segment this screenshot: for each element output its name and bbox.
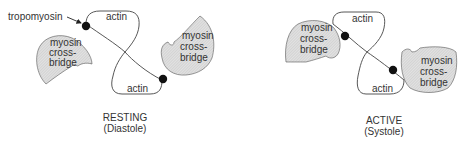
- panel-active: actin actin myosin cross- bridge myosin …: [286, 12, 457, 137]
- active-subtitle: (Systole): [364, 126, 403, 137]
- myosin-right-label-1: myosin: [421, 55, 453, 66]
- actin-bottom-label: actin: [372, 83, 393, 94]
- myosin-right-label-2: cross-: [420, 66, 447, 77]
- myosin-right-label-2: cross-: [180, 41, 207, 52]
- tropomyosin-label: tropomyosin: [8, 11, 62, 22]
- panel-resting: tropomyosin actin actin myosin cross- br…: [8, 11, 214, 134]
- myosin-left-label-3: bridge: [300, 44, 328, 55]
- tropomyosin-dot-lower: [389, 66, 397, 74]
- tropomyosin-dot-lower: [159, 75, 167, 83]
- tropomyosin-dot-upper: [341, 32, 349, 40]
- resting-title: RESTING: [103, 112, 148, 123]
- muscle-contraction-diagram: tropomyosin actin actin myosin cross- br…: [0, 0, 468, 144]
- tropomyosin-dot-upper: [82, 22, 90, 30]
- myosin-left-label-3: bridge: [49, 57, 77, 68]
- myosin-right-label-3: bridge: [180, 52, 208, 63]
- active-title: ACTIVE: [366, 115, 402, 126]
- actin-bottom-label: actin: [127, 83, 148, 94]
- actin-top-label: actin: [106, 11, 127, 22]
- myosin-left-label-2: cross-: [300, 33, 327, 44]
- myosin-right-label-3: bridge: [420, 77, 448, 88]
- resting-subtitle: (Diastole): [104, 123, 147, 134]
- actin-top-label: actin: [352, 13, 373, 24]
- myosin-left-label-1: myosin: [301, 22, 333, 33]
- tropomyosin-arrow-icon: [67, 17, 81, 23]
- myosin-right-label-1: myosin: [182, 30, 214, 41]
